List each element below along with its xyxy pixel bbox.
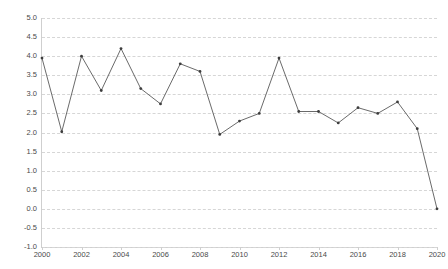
x-tick-label: 2014 — [310, 251, 327, 259]
data-series-layer — [42, 18, 437, 247]
data-point-marker — [337, 122, 340, 125]
x-tick-label: 2002 — [73, 251, 90, 259]
data-point-marker — [100, 89, 103, 92]
x-tick-label: 2018 — [389, 251, 406, 259]
y-tick-label: 4.0 — [27, 52, 37, 60]
y-tick-label: 2.5 — [27, 110, 37, 118]
x-tick-label: 2020 — [429, 251, 446, 259]
x-tick-label: 2004 — [113, 251, 130, 259]
y-tick-label: 0.5 — [27, 186, 37, 194]
data-point-marker — [396, 101, 399, 104]
x-tick-label: 2006 — [152, 251, 169, 259]
data-point-marker — [199, 70, 202, 73]
y-tick-label: -0.5 — [24, 224, 37, 232]
data-point-marker — [218, 133, 221, 136]
y-tick-label: 3.5 — [27, 72, 37, 80]
data-point-marker — [179, 62, 182, 65]
y-tick-label: 1.0 — [27, 167, 37, 175]
line-chart: 5.04.54.03.53.02.52.01.51.00.50.0-0.5-1.… — [0, 0, 448, 269]
y-tick-label: 0.0 — [27, 205, 37, 213]
data-point-marker — [80, 55, 83, 58]
data-point-marker — [139, 87, 142, 90]
data-point-marker — [120, 47, 123, 50]
data-point-marker — [376, 112, 379, 115]
data-point-marker — [317, 110, 320, 113]
y-tick-label: 3.0 — [27, 91, 37, 99]
series-line — [42, 49, 437, 209]
plot-area: 5.04.54.03.53.02.52.01.51.00.50.0-0.5-1.… — [41, 18, 437, 248]
y-tick-label: 4.5 — [27, 33, 37, 41]
y-tick-label: 5.0 — [27, 14, 37, 22]
x-tick-label: 2000 — [34, 251, 51, 259]
y-tick-label: 2.0 — [27, 129, 37, 137]
data-point-marker — [416, 127, 419, 130]
data-point-marker — [41, 57, 44, 60]
data-point-marker — [357, 106, 360, 109]
x-tick-label: 2008 — [192, 251, 209, 259]
x-tick-label: 2016 — [350, 251, 367, 259]
data-point-marker — [258, 112, 261, 115]
y-tick-label: 1.5 — [27, 148, 37, 156]
data-point-marker — [436, 207, 439, 210]
data-point-marker — [238, 120, 241, 123]
data-point-marker — [159, 102, 162, 105]
data-point-marker — [278, 57, 281, 60]
data-point-marker — [297, 110, 300, 113]
data-point-marker — [60, 130, 63, 133]
x-tick-label: 2010 — [231, 251, 248, 259]
x-tick-label: 2012 — [271, 251, 288, 259]
